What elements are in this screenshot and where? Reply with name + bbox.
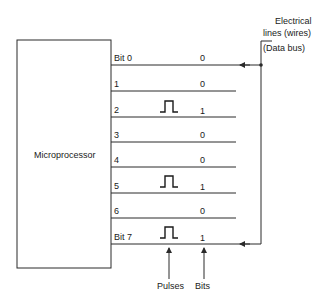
bit-value-7: 1: [200, 233, 205, 243]
data-bus-bracket: [261, 41, 272, 244]
bit-label-2: 2: [114, 105, 119, 115]
bus-junction-dot: [259, 63, 263, 67]
bit-label-0: Bit 0: [114, 53, 132, 63]
bit-value-6: 0: [200, 206, 205, 216]
bit-value-2: 1: [200, 106, 205, 116]
bit-label-6: 6: [114, 206, 119, 216]
bit-label-4: 4: [114, 155, 119, 165]
pulse-icon-bit-5: [160, 176, 178, 187]
pulses-label: Pulses: [157, 281, 184, 291]
pointer-arrows: [169, 248, 204, 279]
bits-label: Bits: [195, 281, 210, 291]
bit-label-1: 1: [114, 79, 119, 89]
bit-value-1: 0: [200, 79, 205, 89]
data-wires: [111, 65, 261, 244]
pulse-icon-bit-2: [160, 101, 178, 112]
bus-arrows: [240, 65, 250, 244]
bit-value-4: 0: [200, 155, 205, 165]
bus-label-line1: Electrical: [275, 16, 312, 26]
pulse-glyphs: [160, 101, 178, 238]
bit-value-5: 1: [200, 182, 205, 192]
bit-value-3: 0: [200, 130, 205, 140]
pulse-icon-bit-7: [160, 227, 178, 238]
microprocessor-label: Microprocessor: [34, 150, 96, 160]
bit-value-0: 0: [200, 53, 205, 63]
bus-label-line2: lines (wires): [263, 28, 311, 38]
bit-label-7: Bit 7: [114, 232, 132, 242]
bus-label-line3: (Data bus): [263, 43, 305, 53]
bit-label-5: 5: [114, 181, 119, 191]
bit-label-3: 3: [114, 130, 119, 140]
